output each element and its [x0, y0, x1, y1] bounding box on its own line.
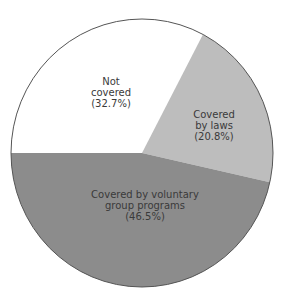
label-line: (32.7%) [91, 98, 131, 109]
slice-label-voluntary-programs: Covered by voluntary group programs (46.… [91, 189, 199, 222]
label-line: (46.5%) [91, 211, 199, 222]
pie-chart [0, 0, 285, 299]
slice-label-covered-by-laws: Covered by laws (20.8%) [193, 109, 235, 142]
slice-label-not-covered: Not covered (32.7%) [91, 76, 131, 109]
label-line: (20.8%) [193, 131, 235, 142]
label-line: by laws [193, 120, 235, 131]
label-line: Not [91, 76, 131, 87]
label-line: group programs [91, 200, 199, 211]
label-line: Covered by voluntary [91, 189, 199, 200]
label-line: Covered [193, 109, 235, 120]
label-line: covered [91, 87, 131, 98]
